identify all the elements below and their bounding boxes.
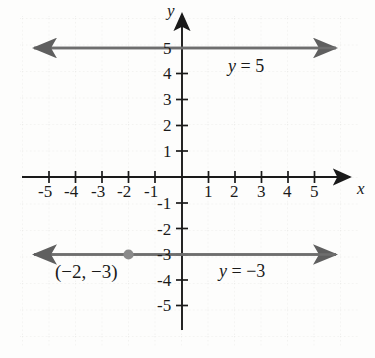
x-tick-label-neg4: -4 — [64, 183, 78, 200]
y-tick-label-1: 1 — [163, 143, 172, 160]
x-axis-label: x — [357, 180, 365, 197]
point-coordinate-label: (−2, −3) — [55, 262, 118, 281]
y-tick-label-neg3: -3 — [157, 246, 171, 263]
y-tick-label-3: 3 — [163, 91, 172, 108]
equation-rest-bottom: = −3 — [227, 261, 265, 281]
y-tick-label-2: 2 — [163, 117, 172, 134]
equation-rest-top: = 5 — [236, 56, 264, 76]
y-tick-label-5: 5 — [163, 40, 172, 57]
equation-label-y-equals-minus-3: y = −3 — [219, 262, 265, 280]
x-tick-label-3: 3 — [257, 183, 266, 200]
coordinate-graph: -5 -4 -3 -2 -1 1 2 3 4 5 5 4 3 2 1 -1 -2… — [0, 0, 375, 358]
equation-variable-bottom: y — [219, 261, 227, 281]
x-tick-label-4: 4 — [283, 183, 292, 200]
equation-variable-top: y — [228, 56, 236, 76]
x-tick-label-neg2: -2 — [117, 183, 131, 200]
y-tick-label-neg1: -1 — [157, 195, 171, 212]
x-tick-label-neg5: -5 — [38, 183, 52, 200]
y-tick-label-neg5: -5 — [157, 297, 171, 314]
y-tick-label-neg2: -2 — [157, 221, 171, 238]
grid-layer — [20, 16, 358, 346]
y-tick-label-4: 4 — [163, 65, 172, 82]
equation-label-y-equals-5: y = 5 — [228, 57, 264, 75]
x-tick-label-2: 2 — [230, 183, 239, 200]
x-tick-label-neg3: -3 — [91, 183, 105, 200]
x-tick-label-1: 1 — [204, 183, 213, 200]
plot-canvas — [0, 0, 375, 358]
y-axis-label: y — [167, 2, 175, 19]
x-tick-label-5: 5 — [310, 183, 319, 200]
y-tick-label-neg4: -4 — [157, 272, 171, 289]
plotted-point — [123, 249, 133, 259]
